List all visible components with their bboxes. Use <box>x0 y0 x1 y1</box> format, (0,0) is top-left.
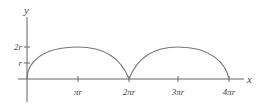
x-tick-label-pir: πr <box>74 87 83 97</box>
arch-1 <box>27 47 129 79</box>
arch-2 <box>129 47 229 79</box>
y-tick-label-r: r <box>18 58 22 68</box>
x-tick-label-2pir: 2πr <box>123 87 136 97</box>
x-axis-label: x <box>246 73 252 85</box>
x-tick-label-3pir: 3πr <box>171 87 185 97</box>
y-axis-label: y <box>23 4 29 16</box>
diagram-canvas: y x 2r r πr 2πr 3πr 4πr <box>0 0 270 109</box>
y-tick-label-2r: 2r <box>14 42 23 52</box>
x-tick-label-4pir: 4πr <box>223 87 236 97</box>
cycloid-diagram: y x 2r r πr 2πr 3πr 4πr <box>0 0 270 109</box>
